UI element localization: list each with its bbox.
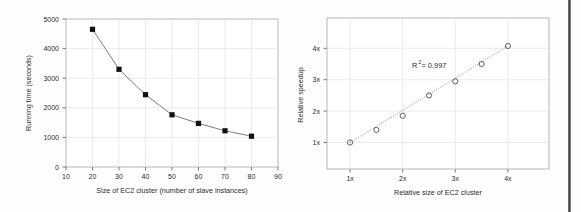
- x-tick-label-1x: 1x: [346, 175, 354, 182]
- relative-speedup-chart-panel: 1x 2x 3x 4x 1x 2x 3x 4x R: [290, 0, 568, 212]
- data-point-20: [90, 27, 95, 32]
- y-tick-label-3000: 3000: [43, 75, 59, 82]
- x-tick-label-30: 30: [115, 173, 123, 180]
- y-axis-ticks: [63, 19, 67, 167]
- data-point-40: [143, 92, 148, 97]
- y-tick-label-1x: 1x: [313, 139, 321, 146]
- y-tick-label-1000: 1000: [43, 134, 59, 141]
- y-tick-label-4000: 4000: [43, 45, 59, 52]
- y-tick-label-4x: 4x: [313, 45, 321, 52]
- y-tick-label-5000: 5000: [43, 16, 59, 23]
- y-tick-label-0: 0: [55, 164, 59, 171]
- r-squared-annotation: R 2 = 0.997: [412, 59, 446, 70]
- plot-frame: [327, 18, 549, 169]
- data-point-70: [222, 128, 227, 133]
- x-tick-label-20: 20: [89, 173, 97, 180]
- data-point-60: [196, 121, 201, 126]
- x-tick-label-60: 60: [195, 173, 203, 180]
- running-time-chart-panel: 0 1000 2000 3000 4000 5000 10 20 30 40 5…: [0, 0, 290, 212]
- r-squared-prefix: R: [412, 61, 417, 70]
- data-point-50: [169, 112, 174, 117]
- x-tick-label-50: 50: [168, 173, 176, 180]
- x-tick-label-3x: 3x: [452, 175, 460, 182]
- x-axis-title: Size of EC2 cluster (number of slave ins…: [96, 186, 247, 195]
- r-squared-value: = 0.997: [422, 61, 447, 70]
- y-tick-label-2000: 2000: [43, 104, 59, 111]
- x-tick-label-2x: 2x: [399, 175, 407, 182]
- x-tick-label-80: 80: [248, 173, 256, 180]
- y-tick-label-3x: 3x: [313, 76, 321, 83]
- page-scan-edge: [568, 0, 571, 212]
- running-time-chart-svg: 0 1000 2000 3000 4000 5000 10 20 30 40 5…: [0, 0, 290, 212]
- x-tick-label-40: 40: [142, 173, 150, 180]
- x-tick-label-10: 10: [62, 173, 70, 180]
- x-axis-ticks: [66, 167, 278, 171]
- y-tick-label-2x: 2x: [313, 108, 321, 115]
- data-point-80: [249, 134, 254, 139]
- x-tick-label-70: 70: [221, 173, 229, 180]
- y-axis-ticks: [324, 48, 328, 142]
- data-point-30: [116, 67, 121, 72]
- figure-page: 0 1000 2000 3000 4000 5000 10 20 30 40 5…: [0, 0, 581, 212]
- relative-speedup-chart-svg: 1x 2x 3x 4x 1x 2x 3x 4x R: [290, 0, 568, 212]
- x-tick-label-90: 90: [274, 173, 282, 180]
- x-axis-ticks: [350, 169, 508, 173]
- x-axis-title: Relative size of EC2 cluster: [394, 188, 482, 197]
- x-tick-label-4x: 4x: [504, 175, 512, 182]
- y-axis-title: Relative speedup: [296, 67, 305, 123]
- y-axis-title: Running time (seconds): [24, 55, 33, 131]
